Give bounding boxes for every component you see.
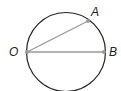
label-o: O	[9, 45, 18, 59]
point-o	[25, 50, 29, 54]
point-a	[86, 19, 90, 23]
label-b: B	[109, 45, 117, 59]
point-b	[102, 50, 106, 54]
label-a: A	[90, 5, 99, 19]
circle-diagram: O A B	[0, 0, 121, 91]
